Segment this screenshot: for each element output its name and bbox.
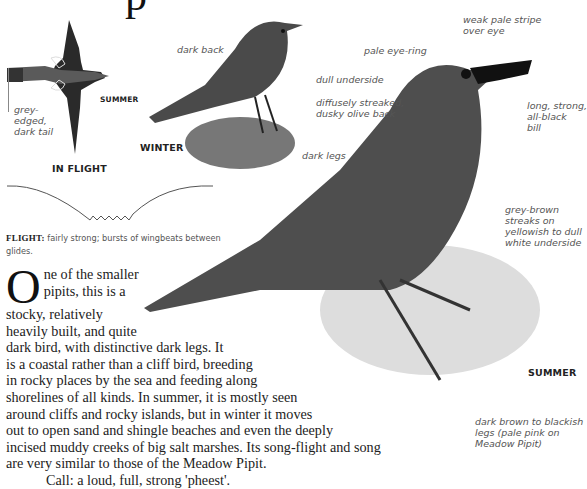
body-line: is a coastal rather than a cliff bird, b… xyxy=(6,356,566,373)
eye-ring-label: pale eye-ring xyxy=(364,45,427,56)
underside-streaks-label: grey-brown streaks on yellowish to dull … xyxy=(505,204,582,248)
body-line: Call: a loud, full, strong 'pheest'. xyxy=(6,472,566,489)
body-line: ne of the smaller xyxy=(6,266,566,283)
body-line: heavily built, and quite xyxy=(6,323,566,340)
body-line: out to open sand and shingle beaches and… xyxy=(6,422,566,439)
body-line: are very similar to those of the Meadow … xyxy=(6,455,566,472)
flight-season-label: SUMMER xyxy=(100,95,139,104)
drop-cap: O xyxy=(6,268,41,306)
body-line: shorelines of all kinds. In summer, it i… xyxy=(6,389,566,406)
weak-stripe-label: weak pale stripe over eye xyxy=(463,14,541,36)
tail-label: grey- edged, dark tail xyxy=(14,104,53,137)
page-title-fragment: p xyxy=(125,0,147,18)
body-line: in rocky places by the sea and feeding a… xyxy=(6,372,566,389)
flight-caption-label: FLIGHT: xyxy=(6,233,45,243)
flight-bird-illustration xyxy=(5,18,115,158)
body-line: around cliffs and rocky islands, but in … xyxy=(6,406,566,423)
species-description: O ne of the smaller pipits, this is a st… xyxy=(6,266,566,489)
bill-label: long, strong, all-black bill xyxy=(527,100,587,133)
body-line: incised muddy creeks of big salt marshes… xyxy=(6,439,566,456)
in-flight-caption: IN FLIGHT xyxy=(52,163,107,174)
body-line: dark bird, with distinctive dark legs. I… xyxy=(6,339,566,356)
body-line: stocky, relatively xyxy=(6,306,566,323)
tail-leader-line xyxy=(8,68,9,112)
body-line: pipits, this is a xyxy=(6,283,566,300)
back-label: diffusely streaked, dusky olive back xyxy=(316,97,404,119)
